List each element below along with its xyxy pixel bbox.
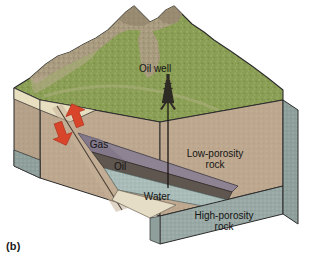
high-porosity-label-line2: rock — [215, 221, 235, 232]
high-porosity-label-line1: High-porosity — [195, 210, 254, 221]
high-porosity-right-face — [283, 100, 298, 224]
left-side-face — [14, 88, 40, 178]
figure-caption: (b) — [6, 240, 21, 252]
low-porosity-label-line2: rock — [206, 159, 226, 170]
oil-well-label: Oil well — [139, 63, 171, 74]
high-porosity-front-corner — [150, 216, 160, 244]
gas-label: Gas — [90, 139, 108, 150]
oil-label: Oil — [114, 161, 126, 172]
water-label: Water — [144, 191, 171, 202]
low-porosity-label-line1: Low-porosity — [187, 148, 244, 159]
geologic-block-diagram: Oil well Gas Oil Water Low-porosity rock… — [0, 0, 311, 266]
